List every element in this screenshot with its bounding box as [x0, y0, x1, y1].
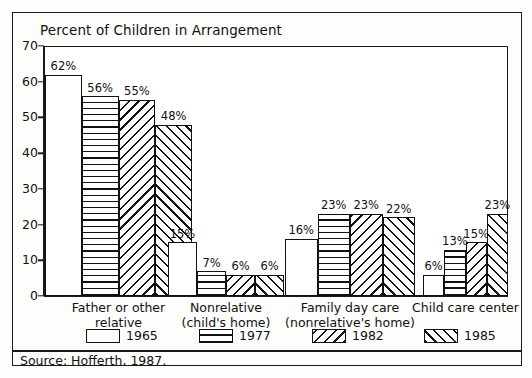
bar-value-label: 23%: [353, 200, 379, 212]
bar-value-label: 48%: [161, 111, 187, 123]
bar-1985-group-2: [255, 275, 284, 296]
legend-item-1965[interactable]: 1965: [86, 328, 158, 344]
y-axis-tick-label: 60: [8, 75, 38, 88]
legend-item-1977[interactable]: 1977: [199, 328, 271, 344]
bar-value-label: 56%: [87, 83, 113, 95]
chart-title: Percent of Children in Arrangement: [40, 22, 282, 38]
x-axis-category-label: Father or otherrelative: [72, 301, 165, 331]
legend-item-1985[interactable]: 1985: [424, 328, 496, 344]
legend-label: 1965: [126, 330, 158, 343]
bar-1977-group-2: [197, 271, 226, 296]
x-axis-category-label: Family day care(nonrelative's home): [285, 301, 415, 331]
bar-1977-group-1: [82, 96, 119, 296]
bar-1965-group-2: [168, 242, 197, 296]
category-label-line: Nonrelative: [182, 301, 271, 316]
bar-1965-group-4: [423, 275, 444, 296]
legend-swatch-1965: [86, 329, 120, 343]
bar-1982-group-2: [226, 275, 255, 296]
bar-value-label: 22%: [386, 204, 412, 216]
y-axis-tick-label: 50: [8, 111, 38, 124]
legend-swatch-1985: [424, 329, 458, 343]
legend-label: 1985: [464, 330, 496, 343]
category-label-line: Child care center: [412, 301, 519, 316]
bar-1985-group-3: [383, 217, 416, 296]
x-axis-category-label: Child care center: [412, 301, 519, 316]
bar-value-label: 7%: [202, 258, 220, 270]
y-axis-tick-mark: [38, 260, 44, 261]
bar-1977-group-4: [444, 250, 465, 296]
bar-1965-group-3: [285, 239, 318, 296]
y-axis-tick-mark: [38, 295, 44, 296]
legend-label: 1977: [239, 330, 271, 343]
source-note: Source: Hofferth, 1987.: [20, 355, 166, 368]
bar-value-label: 15%: [463, 229, 489, 241]
source-divider: [12, 350, 522, 352]
bar-1965-group-1: [45, 75, 82, 296]
legend-item-1982[interactable]: 1982: [312, 328, 384, 344]
legend-swatch-1977: [199, 329, 233, 343]
bar-value-label: 62%: [51, 61, 77, 73]
bars-layer: 62%56%55%48%15%7%6%6%16%23%23%22%6%13%15…: [44, 46, 508, 296]
bar-value-label: 23%: [321, 200, 347, 212]
y-axis-tick-label: 10: [8, 254, 38, 267]
category-label-line: Father or other: [72, 301, 165, 316]
legend-swatch-1982: [312, 329, 346, 343]
bar-value-label: 23%: [485, 200, 511, 212]
y-axis-tick-mark: [38, 152, 44, 153]
y-axis-tick-mark: [38, 45, 44, 46]
y-axis-tick-label: 30: [8, 183, 38, 196]
y-axis-tick-label: 20: [8, 218, 38, 231]
legend-label: 1982: [352, 330, 384, 343]
bar-value-label: 16%: [288, 225, 314, 237]
bar-1982-group-3: [350, 214, 383, 296]
y-axis-tick-label: 0: [8, 290, 38, 303]
bar-1982-group-4: [466, 242, 487, 296]
bar-1977-group-3: [318, 214, 351, 296]
bar-value-label: 6%: [260, 261, 278, 273]
bar-1982-group-1: [119, 100, 156, 296]
y-axis-labels: 010203040506070: [0, 0, 38, 378]
bar-value-label: 55%: [124, 86, 150, 98]
bar-value-label: 6%: [231, 261, 249, 273]
category-label-line: Family day care: [285, 301, 415, 316]
y-axis-tick-mark: [38, 224, 44, 225]
y-axis-tick-mark: [38, 188, 44, 189]
x-axis-category-label: Nonrelative(child's home): [182, 301, 271, 331]
figure-container: Percent of Children in Arrangement 01020…: [0, 0, 532, 378]
y-axis-tick-label: 70: [8, 40, 38, 53]
bar-value-label: 6%: [425, 261, 443, 273]
bar-1985-group-4: [487, 214, 508, 296]
y-axis-tick-label: 40: [8, 147, 38, 160]
bar-value-label: 15%: [170, 229, 196, 241]
chart-legend: 1965197719821985: [44, 328, 508, 346]
y-axis-tick-mark: [38, 81, 44, 82]
y-axis-tick-mark: [38, 117, 44, 118]
